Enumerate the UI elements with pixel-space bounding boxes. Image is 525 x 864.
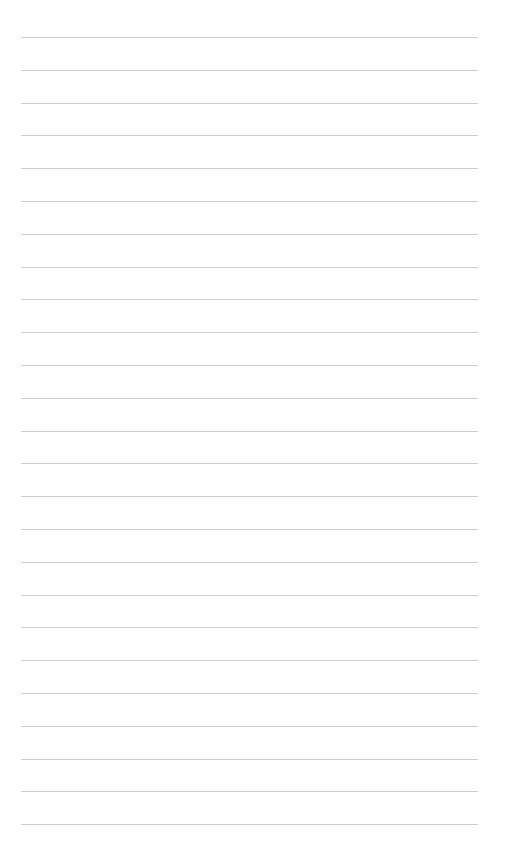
lined-paper-page — [0, 0, 525, 864]
ruled-line — [21, 234, 478, 235]
ruled-line — [21, 365, 478, 366]
ruled-line — [21, 37, 478, 38]
ruled-line — [21, 70, 478, 71]
ruled-line — [21, 529, 478, 530]
ruled-line — [21, 398, 478, 399]
ruled-line — [21, 562, 478, 563]
ruled-line — [21, 267, 478, 268]
ruled-line — [21, 135, 478, 136]
ruled-line — [21, 496, 478, 497]
ruled-line — [21, 431, 478, 432]
ruled-line — [21, 726, 478, 727]
ruled-line — [21, 693, 478, 694]
ruled-line — [21, 595, 478, 596]
ruled-line — [21, 824, 478, 825]
ruled-line — [21, 627, 478, 628]
ruled-line — [21, 759, 478, 760]
ruled-line — [21, 103, 478, 104]
ruled-line — [21, 660, 478, 661]
ruled-line — [21, 201, 478, 202]
ruled-line — [21, 791, 478, 792]
ruled-line — [21, 332, 478, 333]
ruled-line — [21, 168, 478, 169]
ruled-line — [21, 299, 478, 300]
ruled-line — [21, 463, 478, 464]
